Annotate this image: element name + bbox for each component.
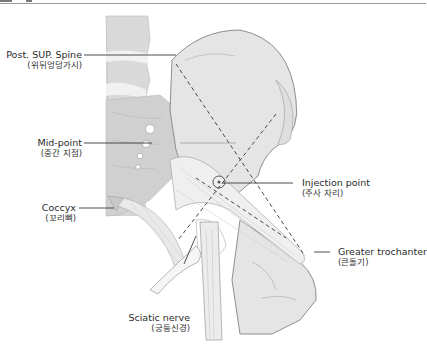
label-en: Injection point [302,177,370,188]
label-ko: (큰돌기) [338,257,427,268]
label-ko: (중간 지점) [37,148,82,159]
label-en: Post. SUP. Spine [6,49,82,60]
label-ko: (주사 자리) [302,188,370,199]
sacrum-spine [106,16,180,216]
label-en: Greater trochanter [338,246,427,257]
label-sciatic-nerve: Sciatic nerve (궁둥신경) [128,312,190,334]
label-greater-trochanter: Greater trochanter (큰돌기) [338,246,427,268]
label-ko: (위뒤엉덩가시) [6,60,82,71]
label-post-sup-spine: Post. SUP. Spine (위뒤엉덩가시) [6,49,82,71]
label-ko: (궁둥신경) [128,323,190,334]
label-en: Sciatic nerve [128,312,190,323]
sacral-foramen [146,125,155,134]
label-mid-point: Mid-point (중간 지점) [37,137,82,159]
sacral-foramen [136,165,141,170]
injection-point-dot [218,181,221,184]
label-en: Coccyx [42,202,76,213]
label-ko: (꼬리뼈) [42,213,76,224]
sacral-foramen [142,140,149,147]
label-en: Mid-point [37,137,82,148]
label-coccyx: Coccyx (꼬리뼈) [42,202,76,224]
sacral-foramen [137,153,143,159]
label-injection-point: Injection point (주사 자리) [302,177,370,199]
